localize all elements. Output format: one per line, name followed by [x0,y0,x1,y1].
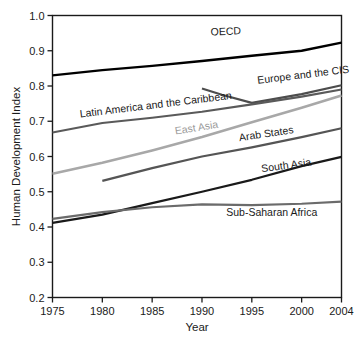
x-tick-label: 1995 [240,305,264,317]
series-label: OECD [210,24,241,37]
y-tick-label: 0.3 [29,256,44,268]
x-axis-title: Year [185,321,208,333]
y-tick-label: 0.2 [29,292,44,304]
y-tick-label: 1.0 [29,10,44,22]
y-tick-label: 0.8 [29,80,44,92]
y-axis-title: Human Development Index [10,87,22,227]
y-tick-label: 0.4 [29,221,44,233]
x-tick-label: 2004 [329,305,353,317]
x-tick-label: 1990 [190,305,214,317]
y-tick-label: 0.6 [29,151,44,163]
x-tick-label: 1975 [40,305,64,317]
y-tick-label: 0.9 [29,45,44,57]
x-tick-label: 1980 [90,305,114,317]
line-chart: 0.20.30.40.50.60.70.80.91.0 197519801985… [0,0,362,345]
y-tick-label: 0.5 [29,186,44,198]
x-tick-label: 2000 [289,305,313,317]
series-label: Sub-Saharan Africa [226,206,317,218]
x-tick-label: 1985 [140,305,164,317]
chart-container: 0.20.30.40.50.60.70.80.91.0 197519801985… [0,0,362,345]
y-tick-label: 0.7 [29,115,44,127]
